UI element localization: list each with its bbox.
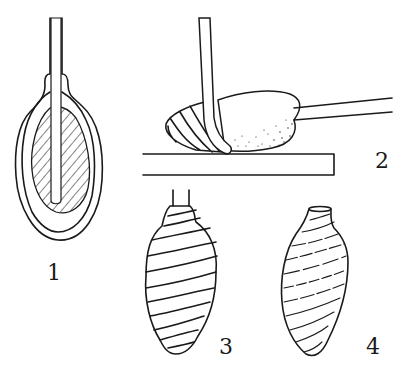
figure-plate — [0, 0, 401, 367]
fig3-rod-stub — [173, 190, 189, 206]
fig4-outline — [282, 209, 348, 355]
fig4-spiral-bands — [284, 214, 346, 352]
figure-2-side-view — [143, 18, 392, 175]
figure-label-1: 1 — [47, 262, 61, 284]
fig2-right-rod — [294, 98, 392, 120]
figure-label-3: 3 — [219, 336, 233, 358]
figure-label-4: 4 — [366, 336, 380, 358]
figure-4-vase-form — [282, 207, 348, 356]
fig2-oval-body — [218, 91, 300, 151]
fig1-central-rod — [51, 18, 61, 204]
figure-1-section — [16, 18, 103, 240]
figure-label-2: 2 — [375, 150, 389, 172]
figure-3-coiled-form — [146, 190, 217, 354]
fig2-base-plate — [143, 154, 334, 175]
fig4-top-rim — [309, 207, 331, 212]
